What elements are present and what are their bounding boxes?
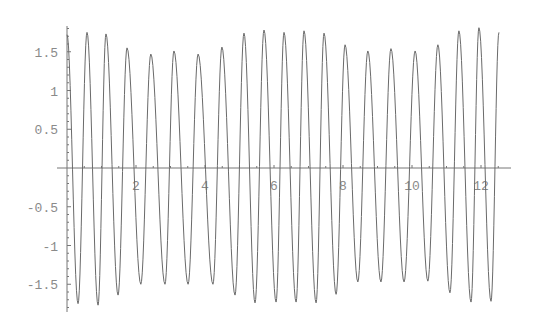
x-tick-label: 12 — [473, 179, 489, 194]
y-tick-label: -1.5 — [27, 278, 58, 293]
series-line-oscillation — [67, 28, 499, 305]
y-tick-label: 0.5 — [35, 123, 58, 138]
x-tick-label: 2 — [132, 179, 140, 194]
x-tick-label: 4 — [201, 179, 209, 194]
y-tick-label: 1.5 — [35, 46, 58, 61]
y-tick-label: -1 — [42, 240, 58, 255]
x-tick-label: 10 — [404, 179, 420, 194]
y-tick-label: -0.5 — [27, 201, 58, 216]
x-tick-label: 6 — [270, 179, 278, 194]
y-tick-label: 1 — [50, 85, 58, 100]
y-axis-tick-labels: -1.5-1-0.50.511.5 — [27, 46, 58, 294]
line-chart: 24681012 -1.5-1-0.50.511.5 — [0, 0, 534, 327]
